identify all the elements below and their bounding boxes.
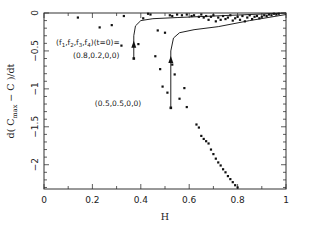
data-point bbox=[176, 13, 178, 15]
data-point bbox=[258, 17, 260, 19]
data-point bbox=[171, 63, 173, 65]
data-point bbox=[77, 16, 79, 18]
x-tick-label: 0.4 bbox=[134, 195, 149, 205]
data-point bbox=[178, 98, 180, 100]
data-point bbox=[220, 19, 222, 21]
x-axis-label: H bbox=[161, 211, 169, 222]
data-point bbox=[147, 13, 149, 15]
data-point bbox=[111, 24, 113, 26]
data-point bbox=[164, 32, 166, 34]
data-point bbox=[266, 15, 268, 17]
data-point bbox=[237, 186, 239, 188]
data-point bbox=[232, 181, 234, 183]
data-point bbox=[186, 106, 188, 108]
data-point bbox=[159, 68, 161, 70]
data-point bbox=[195, 123, 197, 125]
data-point bbox=[220, 164, 222, 166]
data-point bbox=[215, 158, 217, 160]
data-point bbox=[275, 13, 277, 15]
data-point bbox=[261, 16, 263, 18]
plot-frame bbox=[44, 13, 286, 189]
data-point bbox=[149, 13, 151, 15]
annotation-label: (0.5,0.5,0,0) bbox=[95, 99, 141, 108]
data-point bbox=[249, 14, 251, 16]
data-point bbox=[215, 20, 217, 22]
x-tick-label: 0 bbox=[41, 195, 47, 205]
data-point bbox=[120, 45, 122, 47]
y-axis-label: d( Cmax − C )/dt bbox=[5, 63, 19, 138]
data-point bbox=[273, 13, 275, 15]
data-point bbox=[205, 15, 207, 17]
data-point bbox=[181, 14, 183, 16]
arrow-up-icon bbox=[131, 41, 136, 48]
data-point bbox=[198, 16, 200, 18]
trajectory-lines bbox=[131, 13, 286, 109]
y-tick-label: −0.5 bbox=[30, 40, 40, 62]
data-point bbox=[203, 138, 205, 140]
arrow-up-icon bbox=[168, 56, 173, 63]
data-point bbox=[193, 14, 195, 16]
data-point bbox=[123, 15, 125, 17]
data-point bbox=[99, 26, 101, 28]
data-point bbox=[224, 18, 226, 20]
data-point bbox=[246, 16, 248, 18]
data-point bbox=[253, 16, 255, 18]
data-point bbox=[244, 20, 246, 22]
data-point bbox=[210, 148, 212, 150]
data-point bbox=[207, 142, 209, 144]
data-point bbox=[203, 16, 205, 18]
data-point bbox=[234, 17, 236, 19]
data-point bbox=[237, 16, 239, 18]
trajectory-line bbox=[171, 15, 286, 108]
data-point bbox=[186, 13, 188, 15]
data-point bbox=[161, 85, 163, 87]
data-point bbox=[222, 15, 224, 17]
y-tick-label: −1.5 bbox=[30, 116, 40, 138]
data-point bbox=[263, 14, 265, 16]
data-point bbox=[137, 43, 139, 45]
trajectory-start-point bbox=[132, 57, 135, 60]
data-point bbox=[174, 73, 176, 75]
data-point bbox=[217, 161, 219, 163]
data-point bbox=[205, 140, 207, 142]
y-tick-label: −1 bbox=[30, 82, 40, 95]
data-point bbox=[171, 15, 173, 17]
data-point bbox=[210, 16, 212, 18]
data-point bbox=[154, 55, 156, 57]
data-point bbox=[227, 175, 229, 177]
x-tick-label: 0.8 bbox=[230, 195, 245, 205]
data-point bbox=[239, 19, 241, 21]
data-point bbox=[200, 13, 202, 15]
y-axis-ticks: 0−0.5−1−1.5−2 bbox=[30, 10, 286, 188]
data-point bbox=[217, 16, 219, 18]
data-point bbox=[268, 13, 270, 15]
x-tick-label: 0.2 bbox=[85, 195, 99, 205]
data-point bbox=[232, 19, 234, 21]
y-tick-label: −2 bbox=[30, 158, 40, 171]
annotation-label: (f1,f2,f3,f4)(t=0)= bbox=[56, 38, 120, 48]
data-point bbox=[270, 14, 272, 16]
data-point bbox=[169, 14, 171, 16]
annotations: (f1,f2,f3,f4)(t=0)=(0.8,0.2,0,0)(0.5,0.5… bbox=[56, 38, 141, 108]
data-point bbox=[278, 13, 280, 15]
x-tick-label: 0.6 bbox=[182, 195, 197, 205]
data-point bbox=[198, 126, 200, 128]
data-point bbox=[183, 87, 185, 89]
data-point bbox=[212, 14, 214, 16]
data-point bbox=[157, 29, 159, 31]
data-point bbox=[227, 16, 229, 18]
y-tick-label: 0 bbox=[30, 10, 40, 16]
trajectory-line bbox=[134, 13, 286, 59]
x-tick-label: 1 bbox=[283, 195, 289, 205]
data-point bbox=[191, 15, 193, 17]
data-point bbox=[229, 14, 231, 16]
data-point bbox=[212, 153, 214, 155]
plot-area-border bbox=[44, 13, 286, 189]
data-point bbox=[224, 171, 226, 173]
annotation-label: (0.8,0.2,0,0) bbox=[73, 51, 119, 60]
data-point bbox=[251, 18, 253, 20]
data-point bbox=[207, 19, 209, 21]
data-point bbox=[200, 135, 202, 137]
trajectory-start-point bbox=[170, 107, 173, 110]
chart: 00.20.40.60.81 0−0.5−1−1.5−2 (f1,f2,f3,f… bbox=[0, 0, 316, 230]
